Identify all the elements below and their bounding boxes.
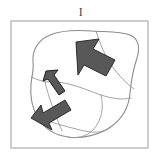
figure-panel: I xyxy=(0,0,162,157)
diagram-canvas xyxy=(0,0,162,157)
